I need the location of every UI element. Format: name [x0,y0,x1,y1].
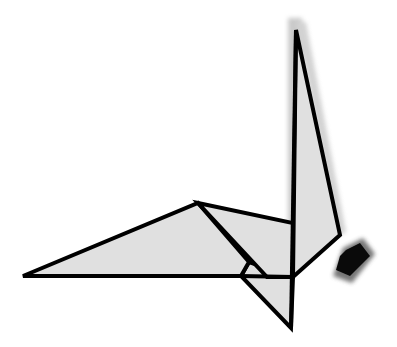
crane-drawing [0,0,397,347]
neck [293,30,340,277]
crane-head [333,238,375,283]
origami-crane-figure: Origami crane diagram [0,0,397,347]
fold-line-bottom [241,276,293,277]
